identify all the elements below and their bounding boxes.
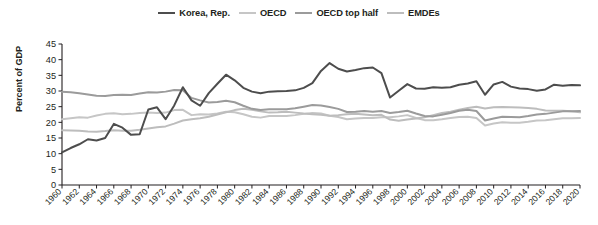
x-tick-label: 1964 — [77, 186, 98, 207]
x-tick-label: 1990 — [302, 186, 323, 207]
y-tick-label: 25 — [46, 102, 56, 112]
series-line-emdes — [62, 107, 580, 132]
y-tick-label: 40 — [46, 55, 56, 65]
x-tick-label: 2000 — [388, 186, 409, 207]
x-tick-label: 1978 — [198, 186, 219, 207]
x-tick-label: 1968 — [112, 186, 133, 207]
x-tick-label: 2004 — [423, 186, 444, 207]
x-tick-label: 1980 — [215, 186, 236, 207]
x-tick-label: 2014 — [509, 186, 530, 207]
x-tick-label: 1994 — [336, 186, 357, 207]
x-tick-label: 1982 — [233, 186, 254, 207]
x-tick-label: 1974 — [164, 186, 185, 207]
x-tick-label: 1972 — [146, 186, 167, 207]
x-tick-label: 2002 — [405, 186, 426, 207]
y-tick-label: 45 — [46, 39, 56, 49]
x-tick-label: 1992 — [319, 186, 340, 207]
x-tick-label: 1998 — [371, 186, 392, 207]
x-tick-label: 1976 — [181, 186, 202, 207]
x-tick-label: 1962 — [60, 186, 81, 207]
x-tick-label: 1996 — [354, 186, 375, 207]
x-tick-label: 2018 — [544, 186, 565, 207]
x-tick-label: 1970 — [129, 186, 150, 207]
x-tick-label: 2016 — [526, 186, 547, 207]
y-tick-label: 35 — [46, 71, 56, 81]
y-tick-label: 5 — [51, 165, 56, 175]
x-tick-label: 2012 — [492, 186, 513, 207]
y-tick-label: 20 — [46, 118, 56, 128]
plot-svg: 0510152025303540451960196219641966196819… — [0, 0, 598, 225]
x-tick-label: 2006 — [440, 186, 461, 207]
y-tick-label: 10 — [46, 149, 56, 159]
x-tick-label: 2008 — [457, 186, 478, 207]
x-tick-label: 1960 — [43, 186, 64, 207]
series-line-oecd-top-half — [62, 90, 580, 120]
x-tick-label: 1986 — [267, 186, 288, 207]
plot-area: 0510152025303540451960196219641966196819… — [0, 0, 598, 225]
x-tick-label: 1984 — [250, 186, 271, 207]
x-tick-label: 1966 — [95, 186, 116, 207]
x-tick-label: 1988 — [285, 186, 306, 207]
y-tick-label: 30 — [46, 86, 56, 96]
y-tick-label: 15 — [46, 133, 56, 143]
x-tick-label: 2020 — [561, 186, 582, 207]
chart-container: Korea, Rep.OECDOECD top halfEMDEs Percen… — [0, 0, 598, 225]
x-tick-label: 2010 — [474, 186, 495, 207]
